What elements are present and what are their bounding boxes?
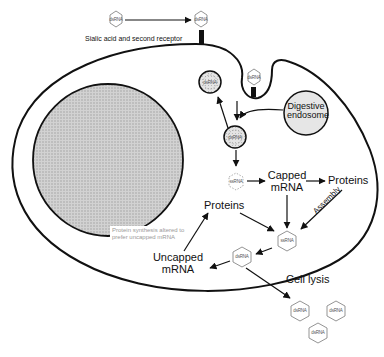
dsrna-label: dsRNA [243,75,265,80]
ssrna-label: ssRNA [276,238,298,243]
dsrna-label: dsRNA [199,80,221,85]
dsrna-label: dsRNA [289,308,311,313]
dsrna-label: dsRNA [307,330,329,335]
dsrna-label: dsRNA [105,17,127,22]
capped-mrna-label: Capped mRNA [266,170,308,193]
diagram-stage: Sialic acid and second receptor dsRNA ds… [0,0,384,357]
dsrna-label: dsRNA [325,308,347,313]
receptor-label: Sialic acid and second receptor [85,35,182,42]
dsrna-label: dsRNA [224,135,246,140]
uncapped-mrna-label: Uncapped mRNA [150,252,206,275]
proteins-left-label: Proteins [204,200,244,212]
dsrna-label: dsRNA [190,17,212,22]
nucleus [33,84,183,236]
cell-lysis-label: Cell lysis [286,274,329,286]
diagram-canvas [0,0,384,357]
receptor [199,30,204,44]
ssrna-label: ssRNA [225,179,247,184]
endocytic-receptor [251,87,256,97]
digestive-endosome-label: Digestive endosome [287,102,325,121]
dsrna-label: dsRNA [231,254,253,259]
protein-synthesis-note: Protein synthesis altered to prefer unca… [110,226,186,242]
